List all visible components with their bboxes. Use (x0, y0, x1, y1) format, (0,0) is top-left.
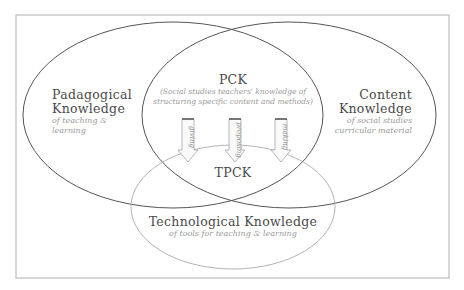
pedagogical-label: Padagogical Knowledge of teaching & lear… (52, 88, 132, 136)
pck-sub-line1: (Social studies teachers' knowledge of (150, 87, 316, 97)
tpck-label: TPCK (200, 166, 266, 180)
tpck-venn-diagram: giving proposing making (0, 0, 464, 290)
arrow-label-making: making (281, 124, 289, 151)
technological-title: Technological Knowledge (140, 215, 326, 229)
pedagogical-sub-line2: learning (52, 126, 132, 136)
arrow-label-giving: giving (188, 126, 196, 148)
technological-sub: of tools for teaching & learning (140, 229, 326, 239)
arrow-label-proposing: proposing (235, 122, 243, 158)
pck-title: PCK (150, 73, 316, 87)
tpck-title: TPCK (200, 166, 266, 180)
pedagogical-sub-line1: of teaching & (52, 116, 132, 126)
content-title-line2: Knowledge (335, 102, 412, 116)
content-title-line1: Content (335, 88, 412, 102)
content-sub-line2: curricular material (335, 126, 412, 136)
content-label: Content Knowledge of social studies curr… (335, 88, 412, 136)
pedagogical-title-line2: Knowledge (52, 102, 132, 116)
pck-sub-line2: structuring specific content and methods… (150, 97, 316, 107)
content-sub-line1: of social studies (335, 116, 412, 126)
pck-label: PCK (Social studies teachers' knowledge … (150, 73, 316, 107)
pedagogical-title-line1: Padagogical (52, 88, 132, 102)
technological-label: Technological Knowledge of tools for tea… (140, 215, 326, 239)
